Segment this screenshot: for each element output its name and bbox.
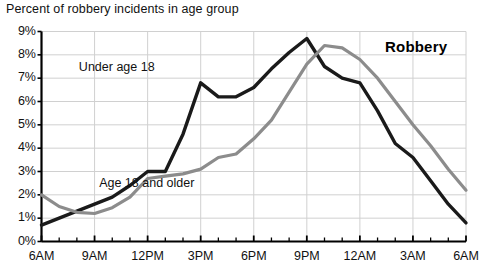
y-tick-label: 3% [2,164,36,178]
x-tick-label: 12AM [333,249,387,263]
x-tick-label: 9PM [280,249,334,263]
series-label-18-and-older: Age 18 and older [99,176,194,190]
y-tick-label: 0% [2,234,36,248]
y-tick-label: 2% [2,187,36,201]
y-tick-label: 5% [2,117,36,131]
y-tick-label: 7% [2,70,36,84]
y-tick-label: 9% [2,24,36,38]
x-tick-label: 3AM [386,249,440,263]
x-tick-label: 6AM [15,249,69,263]
series-label-under-18: Under age 18 [79,60,155,74]
y-tick-label: 1% [2,210,36,224]
x-tick-label: 6PM [227,249,281,263]
y-tick-label: 6% [2,94,36,108]
x-tick-label: 3PM [174,249,228,263]
y-tick-label: 8% [2,47,36,61]
x-tick-label: 9AM [68,249,122,263]
x-tick-label: 6AM [439,249,483,263]
y-tick-label: 4% [2,140,36,154]
x-tick-label: 12PM [121,249,175,263]
chart-badge: Robbery [385,38,447,55]
